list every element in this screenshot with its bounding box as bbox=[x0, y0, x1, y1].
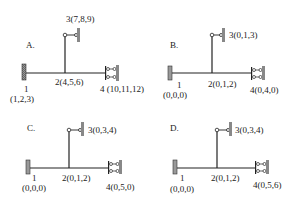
node-2-label: 2(0,1,2) bbox=[211, 173, 240, 183]
node-4-label: 4(0,5,6) bbox=[253, 180, 282, 190]
option-c-panel: C. 3(0,3,4) 2(0,1,2) 4(0,5,0) 1 (0,0,0) bbox=[0, 108, 153, 216]
node-2-label: 2(0,1,2) bbox=[62, 173, 91, 183]
option-label: A. bbox=[26, 40, 35, 50]
option-label: C. bbox=[27, 123, 35, 133]
node-3-label: 3(0,3,4) bbox=[235, 125, 264, 135]
node-1-dof: (0,0,0) bbox=[170, 184, 194, 194]
node-3-label: 3(0,1,3) bbox=[229, 30, 258, 40]
node-1-number: 1 bbox=[177, 80, 182, 90]
node-4-label: 4(0,5,0) bbox=[106, 182, 135, 192]
node-2-label: 2(0,1,2) bbox=[208, 79, 237, 89]
node-2-label: 2(4,5,6) bbox=[55, 77, 84, 87]
node-4-label: 4(0,4,0) bbox=[250, 85, 279, 95]
node-1-number: 1 bbox=[32, 173, 37, 183]
node-3-label: 3(7,8,9) bbox=[66, 14, 95, 24]
node-1-number: 1 bbox=[24, 84, 29, 94]
node-1-dof: (0,0,0) bbox=[22, 183, 46, 193]
option-b-panel: B. 3(0,1,3) 2(0,1,2) 4(0,4,0) 1 (0,0,0) bbox=[153, 0, 306, 108]
option-d-panel: D. 3(0,3,4) 2(0,1,2) 4(0,5,6) 1 (0,0,0) bbox=[153, 108, 306, 216]
node-1-dof: (1,2,3) bbox=[10, 94, 34, 104]
option-label: D. bbox=[170, 123, 179, 133]
node-1-dof: (0,0,0) bbox=[163, 90, 187, 100]
node-1-number: 1 bbox=[180, 173, 185, 183]
node-4-label: 4 (10,11,12) bbox=[100, 84, 144, 94]
option-a-panel: A. 3(7,8,9) 2(4,5,6) 4 (10,11,12) 1 (1,2… bbox=[0, 0, 153, 108]
option-label: B. bbox=[170, 40, 178, 50]
node-3-label: 3(0,3,4) bbox=[88, 125, 117, 135]
frame-diagram-c bbox=[0, 108, 153, 216]
